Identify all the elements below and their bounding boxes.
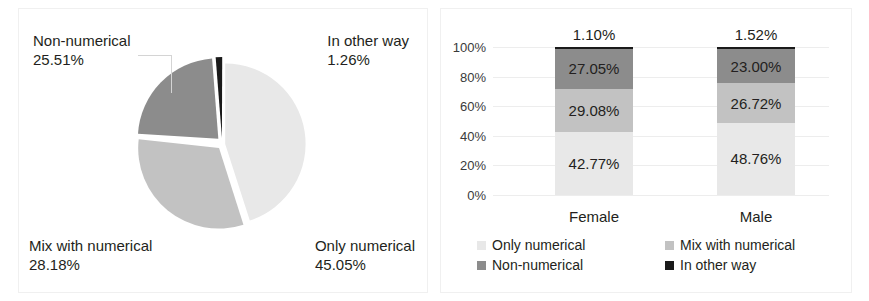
bar-value-male-non-numerical: 23.00% xyxy=(731,58,782,75)
legend-label-in-other-way: In other way xyxy=(680,257,756,273)
bar-stack-female: 42.77% 29.08% 27.05% xyxy=(555,47,633,195)
pie-leader-line-vertical xyxy=(171,55,172,93)
legend-item-non-numerical[interactable]: Non-numerical xyxy=(477,257,657,273)
bar-segment-male-mix-with-numerical[interactable]: 26.72% xyxy=(717,83,795,123)
pie-label-mix-with-numerical: Mix with numerical 28.18% xyxy=(29,236,152,274)
bar-value-female-non-numerical: 27.05% xyxy=(569,60,620,77)
pie-label-in-other-way-name: In other way xyxy=(327,32,409,49)
ytick-label-20: 20% xyxy=(460,158,486,173)
pie-label-only-numerical-value: 45.05% xyxy=(315,255,415,274)
category-label-female: Female xyxy=(569,208,619,225)
pie-leader-line-horizontal xyxy=(138,55,172,56)
legend-item-mix-with-numerical[interactable]: Mix with numerical xyxy=(665,237,845,253)
bar-column-male[interactable]: 48.76% 26.72% 23.00% 1.52% Male xyxy=(717,47,795,195)
ytick-label-0: 0% xyxy=(467,188,486,203)
legend-swatch-mix-with-numerical-icon xyxy=(665,241,674,250)
bar-segment-female-mix-with-numerical[interactable]: 29.08% xyxy=(555,89,633,132)
bar-column-female[interactable]: 42.77% 29.08% 27.05% 1.10% Female xyxy=(555,47,633,195)
bar-value-male-only-numerical: 48.76% xyxy=(731,150,782,167)
pie-label-non-numerical-value: 25.51% xyxy=(33,50,131,69)
legend-label-non-numerical: Non-numerical xyxy=(492,257,583,273)
legend-label-mix-with-numerical: Mix with numerical xyxy=(680,237,795,253)
legend-swatch-non-numerical-icon xyxy=(477,261,486,270)
bar-value-male-in-other-way: 1.52% xyxy=(735,26,778,43)
pie-slice-only-numerical[interactable] xyxy=(225,64,305,221)
pie-slice-non-numerical[interactable] xyxy=(138,59,218,139)
pie-label-in-other-way: In other way 1.26% xyxy=(327,31,409,69)
figure-two-charts: Non-numerical 25.51% In other way 1.26% … xyxy=(0,0,869,301)
bar-plot-area: 100% 80% 60% 40% 20% 0% 42.77% xyxy=(493,47,829,195)
pie-label-only-numerical-name: Only numerical xyxy=(315,237,415,254)
bar-segment-male-non-numerical[interactable]: 23.00% xyxy=(717,49,795,83)
bar-segment-female-only-numerical[interactable]: 42.77% xyxy=(555,132,633,195)
legend-swatch-in-other-way-icon xyxy=(665,261,674,270)
ytick-label-100: 100% xyxy=(453,40,486,55)
stacked-bar-chart-panel: 100% 80% 60% 40% 20% 0% 42.77% xyxy=(440,8,852,293)
legend-label-only-numerical: Only numerical xyxy=(492,237,585,253)
bar-stack-male: 48.76% 26.72% 23.00% xyxy=(717,47,795,195)
bar-value-female-mix-with-numerical: 29.08% xyxy=(569,102,620,119)
category-label-male: Male xyxy=(740,208,773,225)
pie-label-only-numerical: Only numerical 45.05% xyxy=(315,236,415,274)
bar-chart-legend: Only numerical Mix with numerical Non-nu… xyxy=(477,237,845,273)
bar-value-female-only-numerical: 42.77% xyxy=(569,155,620,172)
legend-item-in-other-way[interactable]: In other way xyxy=(665,257,845,273)
ytick-label-40: 40% xyxy=(460,128,486,143)
pie-label-non-numerical: Non-numerical 25.51% xyxy=(33,31,131,69)
bar-segment-female-non-numerical[interactable]: 27.05% xyxy=(555,49,633,89)
pie-chart-panel: Non-numerical 25.51% In other way 1.26% … xyxy=(18,8,428,293)
ytick-label-60: 60% xyxy=(460,99,486,114)
pie-slice-mix-with-numerical[interactable] xyxy=(138,139,243,228)
bar-segment-male-only-numerical[interactable]: 48.76% xyxy=(717,123,795,195)
pie-label-mix-with-numerical-value: 28.18% xyxy=(29,255,152,274)
pie-label-in-other-way-value: 1.26% xyxy=(327,50,409,69)
legend-swatch-only-numerical-icon xyxy=(477,241,486,250)
pie-label-mix-with-numerical-name: Mix with numerical xyxy=(29,237,152,254)
bar-value-male-mix-with-numerical: 26.72% xyxy=(731,95,782,112)
pie-label-non-numerical-name: Non-numerical xyxy=(33,32,131,49)
legend-item-only-numerical[interactable]: Only numerical xyxy=(477,237,657,253)
gridline-0: 0% xyxy=(493,195,829,196)
bar-value-female-in-other-way: 1.10% xyxy=(573,26,616,43)
ytick-label-80: 80% xyxy=(460,69,486,84)
